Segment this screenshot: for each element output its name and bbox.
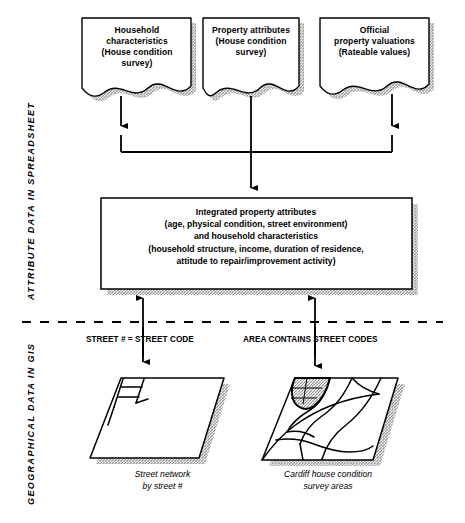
property-attributes-label: Property attributes (House condition sur… bbox=[200, 25, 302, 58]
household-characteristics-line-3: (House condition bbox=[82, 47, 192, 58]
bidirectional-links bbox=[143, 298, 315, 366]
survey-areas-caption-line-2: survey areas bbox=[248, 481, 408, 493]
official-valuations-line-3: (Rateable values) bbox=[319, 47, 430, 58]
official-valuations-line-1: Official bbox=[319, 25, 430, 36]
integrated-line-5: attitude to repair/improvement activity) bbox=[101, 255, 411, 267]
street-relation-label: STREET # = STREET CODE bbox=[86, 335, 194, 344]
area-relation-label: AREA CONTAINS STREET CODES bbox=[243, 335, 378, 344]
source-connectors bbox=[121, 94, 392, 188]
survey-areas-map-caption: Cardiff house condition survey areas bbox=[248, 469, 408, 492]
street-network-caption-line-2: by street # bbox=[90, 481, 235, 493]
official-valuations-line-2: property valuations bbox=[319, 36, 430, 47]
household-characteristics-line-2: characteristics bbox=[82, 36, 192, 47]
integrated-line-2: (age, physical condition, street environ… bbox=[101, 218, 411, 230]
side-label-attribute-data: ATTRIBUTE DATA IN SPREADSHEET bbox=[26, 102, 36, 300]
integrated-attributes-label: Integrated property attributes (age, phy… bbox=[101, 206, 411, 267]
integrated-line-1: Integrated property attributes bbox=[101, 206, 411, 218]
diagram-canvas: Household characteristics (House conditi… bbox=[0, 0, 465, 523]
household-characteristics-line-1: Household bbox=[82, 25, 192, 36]
street-network-map-graphic bbox=[90, 378, 230, 464]
integrated-line-3: and household characteristics bbox=[101, 230, 411, 242]
property-attributes-line-2: (House condition bbox=[200, 36, 302, 47]
integrated-line-4: (household structure, income, duration o… bbox=[101, 243, 411, 255]
official-valuations-label: Official property valuations (Rateable v… bbox=[319, 25, 430, 58]
property-attributes-line-1: Property attributes bbox=[200, 25, 302, 36]
household-characteristics-label: Household characteristics (House conditi… bbox=[82, 25, 192, 69]
side-label-geographical-data: GEOGRAPHICAL DATA IN GIS bbox=[26, 343, 36, 505]
property-attributes-line-3: survey) bbox=[200, 47, 302, 58]
street-network-caption-line-1: Street network bbox=[90, 469, 235, 481]
survey-areas-caption-line-1: Cardiff house condition bbox=[248, 469, 408, 481]
street-network-map-caption: Street network by street # bbox=[90, 469, 235, 492]
survey-areas-map-graphic bbox=[262, 378, 405, 466]
household-characteristics-line-4: survey) bbox=[82, 58, 192, 69]
